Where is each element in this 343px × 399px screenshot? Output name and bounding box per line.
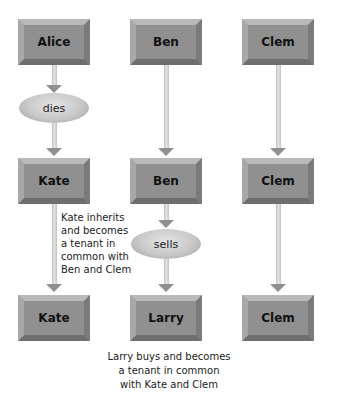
- box-clem-final: Clem: [242, 295, 314, 341]
- box-label: Alice: [38, 35, 71, 49]
- arrow-shaft: [52, 204, 57, 284]
- event-label: sells: [154, 238, 178, 251]
- arrow-shaft: [276, 65, 281, 148]
- arrow-down-icon: [46, 284, 62, 292]
- box-kate-final: Kate: [18, 295, 90, 341]
- arrow-down-icon: [158, 148, 174, 156]
- event-label: dies: [43, 102, 66, 115]
- arrow-shaft: [164, 65, 169, 148]
- note-line: Larry buys and becomes: [96, 350, 242, 364]
- arrow-shaft: [164, 204, 169, 220]
- box-kate: Kate: [18, 158, 90, 204]
- box-label: Larry: [148, 311, 183, 325]
- box-label: Kate: [38, 311, 69, 325]
- note-line: Kate inherits: [61, 211, 131, 224]
- box-label: Clem: [261, 35, 295, 49]
- arrow-down-icon: [270, 148, 286, 156]
- box-clem: Clem: [242, 19, 314, 65]
- note-line: common with: [61, 250, 131, 263]
- arrow-shaft: [276, 204, 281, 284]
- box-label: Clem: [261, 311, 295, 325]
- note-larry-buys: Larry buys and becomes a tenant in commo…: [96, 350, 242, 392]
- arrow-shaft: [164, 259, 169, 284]
- arrow-down-icon: [46, 148, 62, 156]
- box-larry: Larry: [130, 295, 202, 341]
- box-label: Ben: [153, 35, 179, 49]
- box-ben-middle: Ben: [130, 158, 202, 204]
- event-sells: sells: [131, 229, 201, 259]
- event-dies: dies: [19, 93, 89, 123]
- arrow-down-icon: [158, 220, 174, 228]
- note-line: a tenant in: [61, 237, 131, 250]
- arrow-down-icon: [46, 85, 62, 93]
- note-line: and becomes: [61, 224, 131, 237]
- box-label: Ben: [153, 174, 179, 188]
- arrow-down-icon: [270, 284, 286, 292]
- box-clem-middle: Clem: [242, 158, 314, 204]
- box-alice: Alice: [18, 19, 90, 65]
- note-line: with Kate and Clem: [96, 378, 242, 392]
- box-label: Clem: [261, 174, 295, 188]
- arrow-shaft: [52, 65, 57, 86]
- note-line: Ben and Clem: [61, 263, 131, 276]
- note-kate-inherits: Kate inherits and becomes a tenant in co…: [61, 211, 131, 276]
- arrow-down-icon: [158, 284, 174, 292]
- box-label: Kate: [38, 174, 69, 188]
- note-line: a tenant in common: [96, 364, 242, 378]
- arrow-shaft: [52, 123, 57, 148]
- box-ben: Ben: [130, 19, 202, 65]
